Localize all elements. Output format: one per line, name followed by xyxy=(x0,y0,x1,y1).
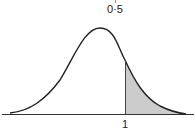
shaded-tail-area xyxy=(125,60,186,114)
normal-curve-diagram xyxy=(0,0,196,132)
top-label: 0·5 xyxy=(107,3,123,15)
bell-curve xyxy=(10,28,186,114)
x-marker-label: 1 xyxy=(122,118,128,130)
